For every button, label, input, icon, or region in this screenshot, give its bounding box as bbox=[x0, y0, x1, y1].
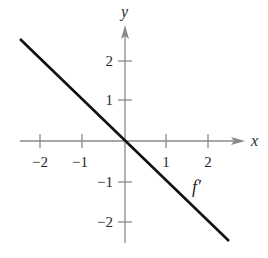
x-tick-label: −2 bbox=[32, 154, 48, 170]
y-tick-label: 2 bbox=[106, 53, 114, 69]
y-tick-label: 1 bbox=[106, 92, 114, 108]
x-axis-label: x bbox=[250, 132, 258, 149]
x-tick-label: 2 bbox=[204, 154, 212, 170]
x-tick-label: −1 bbox=[72, 154, 88, 170]
y-axis-label: y bbox=[119, 3, 129, 21]
curve-label: f′ bbox=[192, 177, 202, 197]
derivative-graph: −2 −1 1 2 2 1 −1 −2 x y f′ bbox=[0, 0, 268, 258]
y-tick-label: −2 bbox=[97, 214, 113, 230]
x-tick-label: 1 bbox=[162, 154, 170, 170]
y-tick-label: −1 bbox=[97, 174, 113, 190]
